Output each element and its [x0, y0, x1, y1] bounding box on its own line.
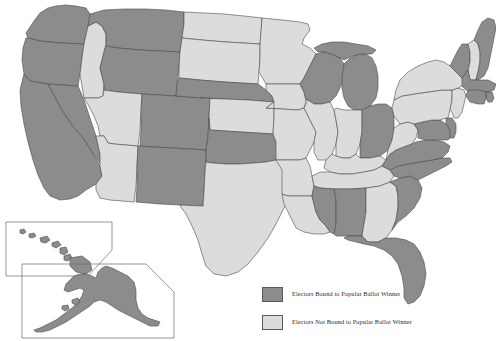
hawaii-islands[interactable] — [20, 229, 92, 274]
state-HI — [52, 241, 61, 248]
state-SD[interactable] — [179, 38, 260, 84]
legend-item-not-bound: Electors Not Bound to Popular Ballot Win… — [262, 311, 462, 333]
state-IN[interactable] — [334, 108, 362, 158]
state-WY[interactable] — [100, 46, 180, 96]
state-CT[interactable] — [466, 90, 486, 104]
legend-item-bound: Electors Bound to Popular Ballot Winner — [262, 283, 462, 305]
legend-label-bound: Electors Bound to Popular Ballot Winner — [292, 290, 400, 298]
state-AK-island[interactable] — [62, 305, 69, 311]
state-HI — [60, 247, 68, 255]
state-layer — [20, 5, 496, 304]
alaska-inset — [22, 264, 174, 338]
legend-label-not-bound: Electors Not Bound to Popular Ballot Win… — [292, 318, 412, 326]
state-NJ[interactable] — [450, 88, 466, 118]
state-HI — [29, 233, 36, 238]
state-AZ[interactable] — [96, 136, 138, 202]
state-KS[interactable] — [200, 98, 274, 134]
state-GA[interactable] — [362, 182, 398, 242]
state-HI — [20, 229, 26, 234]
state-HI — [40, 236, 50, 243]
state-WA[interactable] — [26, 5, 91, 44]
state-AR[interactable] — [276, 158, 314, 196]
state-RI[interactable] — [486, 92, 494, 102]
legend-swatch-not-bound — [262, 315, 283, 330]
state-OR[interactable] — [22, 38, 84, 86]
state-CO[interactable] — [140, 94, 210, 150]
state-HI — [70, 256, 92, 274]
state-NM[interactable] — [136, 146, 206, 206]
state-AL[interactable] — [334, 188, 366, 236]
state-MI[interactable] — [342, 54, 378, 110]
map-legend: Electors Bound to Popular Ballot Winner … — [262, 283, 462, 339]
legend-swatch-bound — [262, 287, 283, 302]
